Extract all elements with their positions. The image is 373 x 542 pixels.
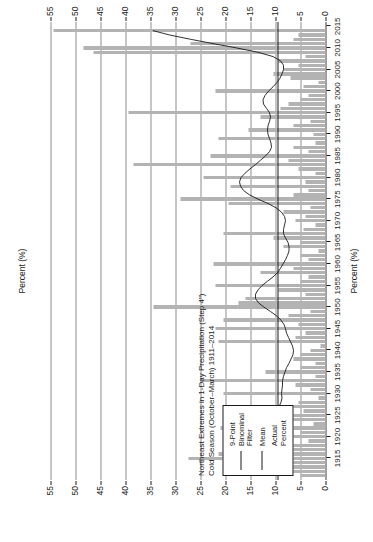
year-tick-mark [326, 457, 330, 458]
year-tick-mark [326, 133, 330, 134]
percent-tick-label: 20 [220, 0, 229, 16]
legend-item-filter: 9-Point Binominal Filter [228, 413, 254, 470]
year-tick-mark [326, 306, 330, 307]
percent-tick-mark [100, 17, 101, 21]
percent-tick-label: 25 [195, 0, 204, 16]
percent-tick-mark [175, 17, 176, 21]
percent-tick-mark [50, 481, 51, 485]
percent-tick-mark [125, 481, 126, 485]
legend-label-filter: 9-Point Binominal Filter [228, 413, 254, 446]
percent-tick-mark [100, 481, 101, 485]
percent-tick-mark [175, 481, 176, 485]
percent-tick-label: 10 [270, 486, 279, 510]
percent-tick-mark [200, 17, 201, 21]
percent-tick-label: 35 [145, 0, 154, 16]
year-tick-mark [326, 112, 330, 113]
percent-tick-label: 10 [270, 0, 279, 16]
percent-tick-label: 20 [220, 486, 229, 510]
year-tick-mark [326, 328, 330, 329]
percent-tick-mark [275, 17, 276, 21]
year-tick-mark [326, 436, 330, 437]
percent-tick-label: 55 [45, 0, 54, 16]
percent-tick-label: 55 [45, 486, 54, 510]
year-tick-mark [326, 393, 330, 394]
percent-tick-mark [300, 481, 301, 485]
chart-legend: 9-Point Binominal Filter Mean Actual Per… [222, 405, 293, 476]
percent-tick-mark [275, 481, 276, 485]
year-tick-mark [326, 25, 330, 26]
percent-tick-mark [325, 481, 326, 485]
percent-tick-mark [225, 481, 226, 485]
percent-tick-label: 40 [120, 486, 129, 510]
bar-swatch-icon [274, 451, 283, 470]
percent-tick-label: 0 [320, 0, 329, 16]
percent-tick-mark [225, 17, 226, 21]
percent-tick-mark [125, 17, 126, 21]
year-tick-mark [326, 241, 330, 242]
year-tick-mark [326, 47, 330, 48]
legend-label-actual: Actual Percent [270, 420, 287, 446]
percent-tick-mark [200, 481, 201, 485]
year-tick-mark [326, 155, 330, 156]
percent-tick-label: 5 [295, 486, 304, 510]
percent-tick-label: 30 [170, 486, 179, 510]
chart-title-line-1: Northeast Extremes in 1-Day Precipitatio… [196, 294, 206, 476]
percent-tick-mark [75, 481, 76, 485]
percent-tick-label: 0 [320, 486, 329, 510]
percent-tick-mark [250, 17, 251, 21]
percent-tick-label: 15 [245, 486, 254, 510]
legend-item-actual: Actual Percent [270, 413, 287, 470]
percent-tick-label: 50 [70, 486, 79, 510]
chart-title: Northeast Extremes in 1-Day Precipitatio… [196, 294, 216, 476]
percent-tick-label: 30 [170, 0, 179, 16]
percent-tick-label: 25 [195, 486, 204, 510]
percent-tick-mark [75, 17, 76, 21]
year-tick-mark [326, 90, 330, 91]
percent-tick-mark [150, 17, 151, 21]
percent-tick-label: 15 [245, 0, 254, 16]
chart-title-line-2: Cold Season (October–March) 1911–2014 [206, 294, 216, 476]
percent-tick-mark [150, 481, 151, 485]
year-tick-label: 2015 [332, 11, 341, 41]
percent-tick-label: 45 [95, 0, 104, 16]
axis-title-bottom: Percent (%) [348, 0, 358, 542]
year-tick-mark [326, 371, 330, 372]
year-tick-mark [326, 414, 330, 415]
percent-tick-label: 35 [145, 486, 154, 510]
percent-tick-label: 45 [95, 486, 104, 510]
percent-tick-label: 40 [120, 0, 129, 16]
percent-tick-label: 50 [70, 0, 79, 16]
year-tick-mark [326, 198, 330, 199]
chart-figure: Percent (%) Percent (%) Northeast Extrem… [0, 0, 373, 542]
axis-title-top: Percent (%) [16, 0, 26, 542]
percent-tick-mark [50, 17, 51, 21]
year-tick-mark [326, 263, 330, 264]
legend-item-mean: Mean [258, 413, 267, 470]
legend-label-mean: Mean [258, 427, 267, 446]
percent-tick-mark [325, 17, 326, 21]
year-tick-mark [326, 349, 330, 350]
year-tick-mark [326, 285, 330, 286]
percent-tick-label: 5 [295, 0, 304, 16]
percent-tick-mark [250, 481, 251, 485]
line-swatch-icon [240, 451, 241, 470]
year-tick-mark [326, 177, 330, 178]
year-tick-mark [326, 69, 330, 70]
line-swatch-icon [261, 451, 262, 470]
year-tick-mark [326, 220, 330, 221]
percent-tick-mark [300, 17, 301, 21]
